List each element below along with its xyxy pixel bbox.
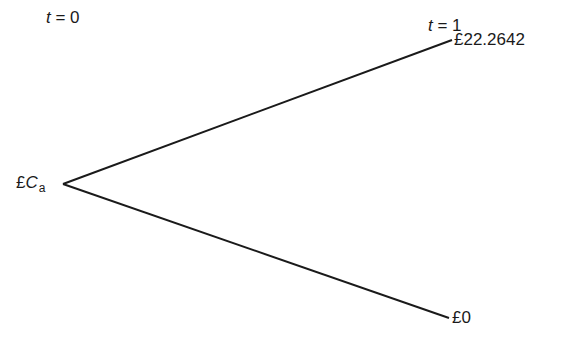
down-node-label: £0 (452, 308, 471, 328)
root-node-label: £Ca (16, 173, 45, 193)
up-payoff: £22.2642 (454, 30, 525, 49)
option-value-subscript: a (39, 181, 46, 195)
option-value-var: C (25, 173, 37, 192)
time-label-t0: t = 0 (46, 8, 80, 28)
time-value: = 0 (51, 8, 80, 27)
binomial-tree-branches (0, 0, 565, 352)
up-node-label: £22.2642 (454, 30, 525, 50)
down-branch (63, 184, 449, 318)
down-payoff: £0 (452, 308, 471, 327)
up-branch (63, 40, 452, 184)
